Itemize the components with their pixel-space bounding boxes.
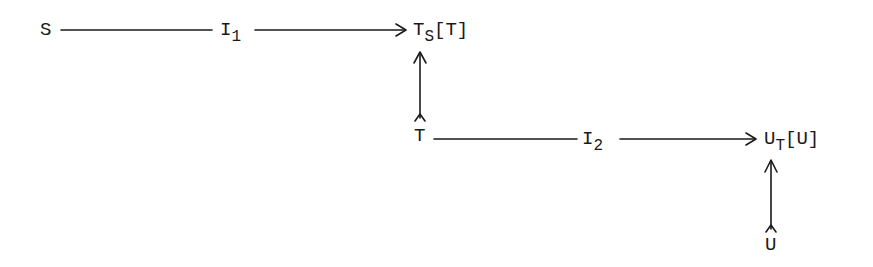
- node-i1-subscript: 1: [231, 28, 241, 46]
- node-u: U: [765, 236, 776, 255]
- node-i1: I1: [220, 21, 241, 40]
- edge-i1-to-ts-t: [255, 24, 406, 36]
- node-ts-t: TS[T]: [413, 21, 468, 40]
- node-t-label: T: [414, 125, 425, 147]
- node-ut-u-bracket: [U]: [785, 128, 819, 150]
- node-ut-u: UT[U]: [764, 130, 819, 149]
- edge-i2-to-ut-u: [620, 133, 756, 145]
- node-u-label: U: [765, 234, 776, 256]
- node-ts-t-bracket: [T]: [434, 19, 468, 41]
- node-ut-u-subscript: T: [775, 137, 785, 155]
- node-s-label: S: [40, 19, 51, 41]
- node-s: S: [40, 21, 51, 40]
- node-i2-subscript: 2: [593, 137, 603, 155]
- node-ts-t-base: T: [413, 19, 424, 41]
- node-ut-u-base: U: [764, 128, 775, 150]
- node-t: T: [414, 127, 425, 146]
- edge-t-to-ts-t: [414, 52, 426, 121]
- node-i1-base: I: [220, 19, 231, 41]
- node-ts-t-subscript: S: [424, 28, 434, 46]
- node-i2-base: I: [582, 128, 593, 150]
- node-i2: I2: [582, 130, 603, 149]
- edge-u-to-ut-u: [765, 160, 777, 232]
